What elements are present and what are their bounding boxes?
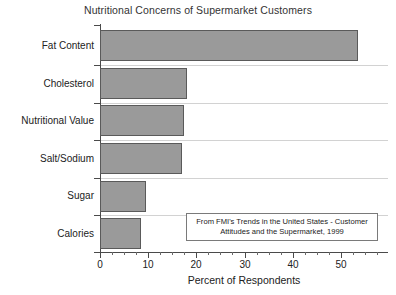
- x-axis-minor-tick: [220, 252, 221, 255]
- x-axis-minor-tick: [377, 252, 378, 255]
- y-axis-tick: [94, 103, 101, 104]
- x-axis-tick-label-10: 10: [142, 259, 153, 270]
- category-label-calories: Calories: [57, 228, 94, 240]
- x-axis-minor-tick: [353, 252, 354, 255]
- category-label-sugar: Sugar: [67, 190, 94, 202]
- x-axis-major-tick: [245, 252, 246, 258]
- bar-calories: [100, 218, 141, 249]
- x-axis-major-tick: [341, 252, 342, 258]
- x-axis-major-tick: [196, 252, 197, 258]
- category-label-cholesterol: Cholesterol: [43, 78, 94, 90]
- bar-nutritional-value: [100, 105, 184, 136]
- x-axis-minor-tick: [124, 252, 125, 255]
- x-axis-minor-tick: [136, 252, 137, 255]
- bar-sugar: [100, 181, 146, 212]
- x-axis-minor-tick: [329, 252, 330, 255]
- x-axis-minor-tick: [257, 252, 258, 255]
- grid-line: [100, 103, 388, 104]
- x-axis-minor-tick: [305, 252, 306, 255]
- chart-container: Nutritional Concerns of Supermarket Cust…: [0, 0, 396, 295]
- x-axis-minor-tick: [172, 252, 173, 255]
- x-axis-tick-label-50: 50: [335, 259, 346, 270]
- bar-salt-sodium: [100, 143, 182, 174]
- y-axis-tick: [94, 215, 101, 216]
- category-label-nutritional-value: Nutritional Value: [21, 115, 94, 127]
- x-axis-title: Percent of Respondents: [100, 274, 388, 286]
- x-axis-line: [100, 252, 388, 253]
- annotation-line-1: From FMI's Trends in the United States -…: [196, 217, 368, 227]
- y-axis-tick: [94, 178, 101, 179]
- x-axis-tick-label-30: 30: [239, 259, 250, 270]
- x-axis-minor-tick: [184, 252, 185, 255]
- category-label-salt-sodium: Salt/Sodium: [40, 153, 94, 165]
- grid-line: [100, 178, 388, 179]
- grid-line: [100, 65, 388, 66]
- category-label-fat-content: Fat Content: [42, 40, 94, 52]
- bar-fat-content: [100, 30, 358, 61]
- bar-cholesterol: [100, 68, 187, 99]
- y-axis-tick: [94, 25, 101, 26]
- x-axis-minor-tick: [160, 252, 161, 255]
- plot-area: Fat Content Cholesterol Nutritional Valu…: [0, 0, 396, 295]
- x-axis-tick-label-0: 0: [97, 259, 103, 270]
- x-axis-minor-tick: [208, 252, 209, 255]
- annotation-line-2: Attitudes and the Supermarket, 1999: [220, 227, 344, 237]
- x-axis-minor-tick: [269, 252, 270, 255]
- x-axis-minor-tick: [365, 252, 366, 255]
- x-axis-tick-label-40: 40: [287, 259, 298, 270]
- x-axis-minor-tick: [112, 252, 113, 255]
- source-annotation-box: From FMI's Trends in the United States -…: [186, 213, 378, 241]
- x-axis-major-tick: [100, 252, 101, 258]
- y-axis-tick: [94, 65, 101, 66]
- x-axis-tick-label-20: 20: [190, 259, 201, 270]
- grid-line: [100, 140, 388, 141]
- y-axis-tick: [94, 140, 101, 141]
- x-axis-minor-tick: [281, 252, 282, 255]
- x-axis-minor-tick: [317, 252, 318, 255]
- x-axis-major-tick: [148, 252, 149, 258]
- x-axis-minor-tick: [232, 252, 233, 255]
- x-axis-major-tick: [293, 252, 294, 258]
